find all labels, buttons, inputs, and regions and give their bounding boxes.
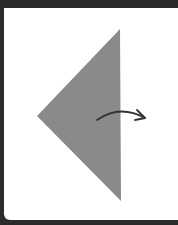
paper-triangle-shape [37, 29, 121, 201]
diagram-frame [0, 0, 178, 225]
fold-diagram [0, 0, 178, 225]
